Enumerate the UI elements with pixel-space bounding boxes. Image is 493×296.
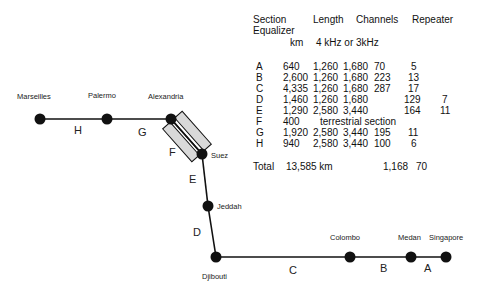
row-e-section: E — [256, 105, 263, 116]
row-b-equalizer: 13 — [408, 72, 419, 83]
row-h-length: 940 — [283, 138, 300, 149]
row-g-section: G — [256, 127, 264, 138]
row-b-repeater: 223 — [374, 72, 391, 83]
row-b-section: B — [256, 72, 263, 83]
row-d-extra: 7 — [442, 94, 448, 105]
row-c-repeater: 287 — [374, 83, 391, 94]
row-f-section: F — [256, 116, 262, 127]
row-h-section: H — [256, 138, 263, 149]
row-e-extra: 11 — [440, 105, 450, 116]
row-e-ch4: 2,580 — [313, 105, 338, 116]
row-h-repeater: 100 — [374, 138, 391, 149]
row-g-equalizer: 11 — [408, 127, 418, 138]
row-e-length: 1,290 — [283, 105, 308, 116]
row-c-ch3: 1,680 — [343, 83, 368, 94]
total-length: 13,585 km — [286, 161, 333, 172]
header-section: Section — [253, 14, 286, 25]
row-g-repeater: 195 — [374, 127, 391, 138]
row-c-section: C — [256, 83, 263, 94]
total-equalizers: 70 — [416, 161, 427, 172]
row-d-ch3: 1,680 — [343, 94, 368, 105]
row-g-length: 1,920 — [283, 127, 308, 138]
total-label: Total — [253, 161, 274, 172]
row-b-ch3: 1,680 — [343, 72, 368, 83]
row-d-section: D — [256, 94, 263, 105]
row-a-equalizer: 5 — [411, 61, 417, 72]
section-table: Section Length Channels Repeater Equaliz… — [0, 0, 493, 296]
row-g-ch4: 2,580 — [313, 127, 338, 138]
header-channels: Channels — [356, 14, 398, 25]
row-a-ch4: 1,260 — [313, 61, 338, 72]
row-a-length: 640 — [283, 61, 300, 72]
row-d-length: 1,460 — [283, 94, 308, 105]
row-h-equalizer: 6 — [411, 138, 417, 149]
row-h-ch4: 2,580 — [313, 138, 338, 149]
row-c-equalizer: 17 — [408, 83, 419, 94]
row-c-length: 4,335 — [283, 83, 308, 94]
header-repeater: Repeater — [412, 14, 453, 25]
row-f-length: 400 — [283, 116, 300, 127]
row-d-ch4: 1,260 — [313, 94, 338, 105]
total-repeaters: 1,168 — [383, 161, 408, 172]
header-km: km — [290, 37, 303, 48]
row-c-ch4: 1,260 — [313, 83, 338, 94]
header-equalizer: Equalizer — [253, 25, 295, 36]
row-a-repeater: 70 — [374, 61, 385, 72]
row-f-note: terrestrial section — [320, 116, 396, 127]
row-h-ch3: 3,440 — [343, 138, 368, 149]
row-a-section: A — [256, 61, 263, 72]
row-b-length: 2,600 — [283, 72, 308, 83]
row-e-equalizer: 164 — [404, 105, 421, 116]
row-g-ch3: 3,440 — [343, 127, 368, 138]
header-channel-units: 4 kHz or 3kHz — [316, 37, 379, 48]
row-d-equalizer: 129 — [404, 94, 421, 105]
row-a-ch3: 1,680 — [343, 61, 368, 72]
header-length: Length — [313, 14, 344, 25]
row-e-ch3: 3,440 — [343, 105, 368, 116]
row-b-ch4: 1,260 — [313, 72, 338, 83]
